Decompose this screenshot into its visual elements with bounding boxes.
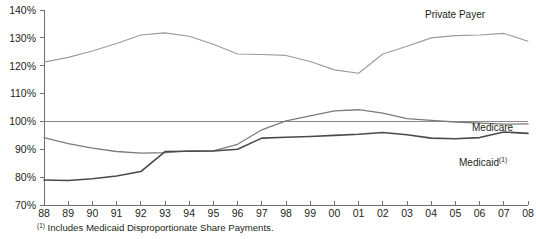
x-axis-tick-label: 97 [256,207,268,219]
x-axis-tick-label: 89 [62,207,74,219]
x-axis-tick-label: 01 [353,207,365,219]
x-axis-tick-label: 88 [38,207,50,219]
x-axis-tick-label: 90 [87,207,99,219]
x-axis-tick-label: 91 [111,207,123,219]
x-axis-tick-label: 95 [208,207,220,219]
series-line-medicare [44,110,528,153]
y-axis-tick-label: 70% [15,199,36,211]
x-axis-tick-label: 06 [474,207,486,219]
y-axis-tick-label: 90% [15,143,36,155]
y-axis-tick-label: 130% [9,32,36,44]
y-axis-tick-label: 120% [9,60,36,72]
x-axis-tick-label: 07 [498,207,510,219]
chart-container: 70%80%90%100%110%120%130%140% 8889909192… [0,0,536,239]
x-axis-tick-label: 96 [232,207,244,219]
y-axis-tick-label: 100% [9,115,36,127]
y-axis-tick-group [40,10,44,205]
y-axis: 70%80%90%100%110%120%130%140% [9,4,44,211]
x-axis-tick-label: 94 [183,207,195,219]
y-axis-tick-label: 140% [9,4,36,16]
y-axis-tick-label: 110% [10,87,36,99]
series-label-medicaid-text: Medicaid(1) [459,156,507,168]
footnote: (1) Includes Medicaid Disproportionate S… [37,222,274,233]
x-axis-tick-label: 03 [401,207,413,219]
series-group [44,33,528,181]
x-axis-tick-label: 02 [377,207,389,219]
line-chart: 70%80%90%100%110%120%130%140% 8889909192… [0,0,536,239]
x-axis-tick-label: 00 [329,207,341,219]
x-axis-tick-label: 93 [159,207,171,219]
x-axis-tick-label: 92 [135,207,147,219]
series-label-medicare: Medicare [472,122,514,133]
x-axis-tick-label: 08 [522,207,534,219]
series-label-medicare-text: Medicare [472,122,514,133]
series-line-medicaid [44,132,528,180]
x-axis-tick-label: 99 [304,207,316,219]
footnote-text: (1) Includes Medicaid Disproportionate S… [37,222,274,233]
y-axis-tick-label: 80% [15,171,36,183]
x-axis-label-group: 8889909192939495969798990001020304050607… [38,207,534,219]
x-axis-tick-label: 05 [450,207,462,219]
series-label-medicaid: Medicaid(1) [459,156,507,168]
series-label-private-payer: Private Payer [425,9,486,20]
x-axis: 8889909192939495969798990001020304050607… [38,201,534,219]
x-axis-tick-label: 04 [425,207,437,219]
y-axis-label-group: 70%80%90%100%110%120%130%140% [9,4,36,211]
series-label-private-payer-text: Private Payer [425,9,486,20]
series-line-private-payer [44,33,528,73]
x-axis-tick-label: 98 [280,207,292,219]
x-axis-tick-group [44,201,528,205]
